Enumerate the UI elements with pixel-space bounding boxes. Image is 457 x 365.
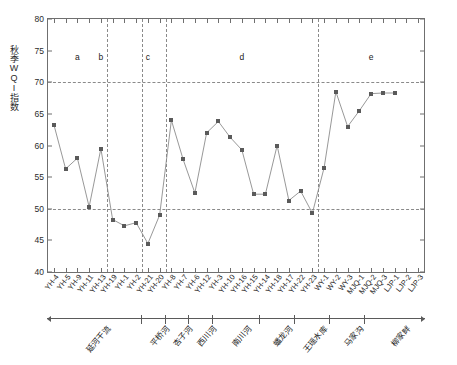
x-tick-mark <box>195 268 196 272</box>
data-point <box>287 199 291 203</box>
y-tick-mark <box>48 240 52 241</box>
y-tick-mark <box>420 240 424 241</box>
x-tick-mark <box>207 268 208 272</box>
y-tick-label: 55 <box>35 172 44 182</box>
x-tick-mark <box>289 19 290 23</box>
data-point <box>322 166 326 170</box>
y-tick-mark <box>420 145 424 146</box>
x-tick-mark <box>348 268 349 272</box>
x-tick-mark <box>124 19 125 23</box>
y-tick-mark <box>420 177 424 178</box>
y-tick-label: 50 <box>35 204 44 214</box>
y-tick-label: 65 <box>35 109 44 119</box>
data-point <box>275 144 279 148</box>
y-tick-mark <box>48 19 52 20</box>
group-label: 南川河 <box>229 323 253 348</box>
data-point <box>334 90 338 94</box>
x-tick-mark <box>160 19 161 23</box>
x-tick-mark <box>324 268 325 272</box>
x-tick-mark <box>383 268 384 272</box>
horizontal-guide-50 <box>48 209 424 210</box>
y-tick-label: 70 <box>35 77 44 87</box>
y-tick-mark <box>48 145 52 146</box>
group-axis-arrow-right <box>421 316 425 322</box>
x-tick-mark <box>242 268 243 272</box>
plot-area: 404550556065707580abcde <box>47 18 425 273</box>
y-tick-mark <box>48 272 52 273</box>
data-point <box>393 91 397 95</box>
x-tick-mark <box>54 19 55 23</box>
y-axis-title: 秋季WQI指数 <box>6 18 22 138</box>
x-tick-mark <box>101 19 102 23</box>
x-tick-mark <box>418 268 419 272</box>
x-tick-mark <box>336 19 337 23</box>
data-point <box>310 211 314 215</box>
x-tick-mark <box>183 268 184 272</box>
data-point <box>169 118 173 122</box>
series-line <box>48 19 424 272</box>
data-point <box>52 123 56 127</box>
region-label-e: e <box>369 52 374 62</box>
data-point <box>357 109 361 113</box>
y-tick-label: 60 <box>35 141 44 151</box>
group-label: 延河干流 <box>83 323 112 355</box>
x-tick-mark <box>77 268 78 272</box>
group-label: 平桥河 <box>147 323 171 348</box>
x-tick-mark <box>312 19 313 23</box>
x-tick-mark <box>383 19 384 23</box>
x-tick-mark <box>230 19 231 23</box>
x-tick-mark <box>359 268 360 272</box>
x-tick-mark <box>160 268 161 272</box>
x-tick-mark <box>336 268 337 272</box>
group-label: 柳家畔 <box>388 323 412 348</box>
region-label-c: c <box>146 52 150 62</box>
data-point <box>146 242 150 246</box>
group-divider-tick <box>141 315 142 324</box>
x-tick-mark <box>254 268 255 272</box>
x-tick-mark <box>89 268 90 272</box>
data-point <box>193 191 197 195</box>
x-tick-mark <box>136 268 137 272</box>
plot-inner: 404550556065707580abcde <box>48 19 424 272</box>
x-tick-mark <box>171 268 172 272</box>
x-tick-mark <box>359 19 360 23</box>
x-tick-mark <box>277 268 278 272</box>
group-divider-tick <box>364 315 365 324</box>
x-tick-mark <box>254 19 255 23</box>
x-tick-mark <box>136 19 137 23</box>
group-label: 杏子河 <box>171 323 195 348</box>
chart-root: 秋季WQI指数 404550556065707580abcde YH-4YH-5… <box>0 0 457 365</box>
data-point <box>75 156 79 160</box>
x-tick-mark <box>277 19 278 23</box>
group-divider-tick <box>259 315 260 324</box>
y-tick-label: 40 <box>35 267 44 277</box>
data-point <box>181 157 185 161</box>
x-tick-mark <box>348 19 349 23</box>
x-tick-mark <box>301 268 302 272</box>
x-tick-mark <box>265 19 266 23</box>
group-divider-tick <box>188 315 189 324</box>
data-point <box>205 131 209 135</box>
x-tick-mark <box>289 268 290 272</box>
group-label: 蟠龙河 <box>270 323 294 348</box>
x-tick-mark <box>124 268 125 272</box>
group-label: 王瑶水库 <box>301 323 330 355</box>
data-point <box>111 218 115 222</box>
x-tick-mark <box>324 19 325 23</box>
x-tick-mark <box>113 268 114 272</box>
x-tick-mark <box>230 268 231 272</box>
x-tick-mark <box>418 19 419 23</box>
y-tick-mark <box>48 113 52 114</box>
x-tick-mark <box>218 268 219 272</box>
group-label: 马家沟 <box>341 323 365 348</box>
data-point <box>134 221 138 225</box>
data-point <box>369 92 373 96</box>
x-tick-mark <box>171 19 172 23</box>
data-point <box>99 147 103 151</box>
group-axis <box>47 318 425 319</box>
x-tick-mark <box>265 268 266 272</box>
y-tick-label: 45 <box>35 235 44 245</box>
x-tick-mark <box>218 19 219 23</box>
data-point <box>87 205 91 209</box>
y-tick-mark <box>420 113 424 114</box>
